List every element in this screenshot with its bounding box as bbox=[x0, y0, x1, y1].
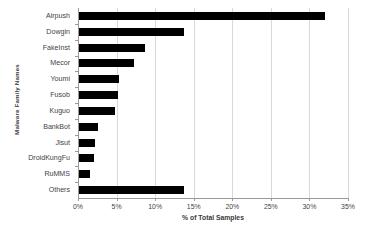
gridline-10% bbox=[155, 8, 156, 198]
bar-kuguo bbox=[78, 107, 115, 115]
gridline-15% bbox=[194, 8, 195, 198]
gridline-25% bbox=[271, 8, 272, 198]
malware-family-bar-chart: Malware Family Names AirpushDowginFakeIn… bbox=[0, 0, 366, 240]
x-tick-20% bbox=[232, 198, 233, 201]
x-tick-label: 0% bbox=[61, 203, 95, 210]
bar-rumms bbox=[78, 170, 90, 178]
y-axis-line bbox=[78, 8, 79, 198]
y-tick-label-dowgin: Dowgin bbox=[8, 28, 70, 36]
x-tick-0% bbox=[78, 198, 79, 201]
y-tick-label-fusob: Fusob bbox=[8, 91, 70, 99]
x-tick-label: 20% bbox=[215, 203, 249, 210]
x-tick-30% bbox=[309, 198, 310, 201]
x-tick-10% bbox=[155, 198, 156, 201]
x-tick-label: 30% bbox=[292, 203, 326, 210]
x-tick-15% bbox=[194, 198, 195, 201]
y-tick-label-others: Others bbox=[8, 186, 70, 194]
x-tick-label: 10% bbox=[138, 203, 172, 210]
x-tick-label: 35% bbox=[331, 203, 365, 210]
gridline-20% bbox=[232, 8, 233, 198]
gridline-30% bbox=[309, 8, 310, 198]
x-tick-5% bbox=[117, 198, 118, 201]
x-axis-line bbox=[78, 198, 348, 199]
y-tick-label-mecor: Mecor bbox=[8, 59, 70, 67]
x-tick-25% bbox=[271, 198, 272, 201]
bar-others bbox=[78, 186, 184, 194]
plot-area bbox=[78, 8, 348, 198]
y-tick-label-jisut: Jisut bbox=[8, 139, 70, 147]
y-tick-label-fakeinst: FakeInst bbox=[8, 44, 70, 52]
bar-fakeinst bbox=[78, 44, 145, 52]
bar-bankbot bbox=[78, 123, 98, 131]
x-tick-label: 25% bbox=[254, 203, 288, 210]
y-tick-label-bankbot: BankBot bbox=[8, 123, 70, 131]
gridline-35% bbox=[348, 8, 349, 198]
bar-fusob bbox=[78, 91, 118, 99]
y-tick-label-droidkungfu: DroidKungFu bbox=[8, 154, 70, 162]
bar-youmi bbox=[78, 75, 119, 83]
y-tick-label-rumms: RuMMS bbox=[8, 170, 70, 178]
x-tick-35% bbox=[348, 198, 349, 201]
y-tick-label-airpush: Airpush bbox=[8, 12, 70, 20]
x-axis-title: % of Total Samples bbox=[78, 214, 348, 221]
gridline-5% bbox=[117, 8, 118, 198]
bar-jisut bbox=[78, 139, 95, 147]
bar-dowgin bbox=[78, 28, 184, 36]
y-axis-tick-labels: AirpushDowginFakeInstMecorYoumiFusobKugu… bbox=[14, 8, 74, 198]
x-tick-label: 15% bbox=[177, 203, 211, 210]
x-tick-label: 5% bbox=[100, 203, 134, 210]
bar-mecor bbox=[78, 59, 134, 67]
bar-airpush bbox=[78, 12, 325, 20]
y-tick-label-kuguo: Kuguo bbox=[8, 107, 70, 115]
y-tick-label-youmi: Youmi bbox=[8, 75, 70, 83]
bar-droidkungfu bbox=[78, 154, 94, 162]
